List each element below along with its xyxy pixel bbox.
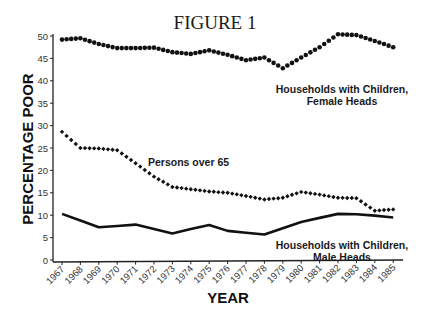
label-male-heads-line2: Male Heads xyxy=(313,251,371,263)
y-tick-label: 25 xyxy=(37,143,48,154)
chart: FIGURE 1 05101520253035404550 1967196819… xyxy=(0,0,427,322)
x-tick-label: 1978 xyxy=(246,262,269,285)
x-tick-label: 1972 xyxy=(136,263,159,286)
x-tick-label: 1974 xyxy=(172,263,195,286)
y-tick-label: 30 xyxy=(37,120,48,131)
x-tick-label: 1975 xyxy=(191,263,214,286)
chart-title: FIGURE 1 xyxy=(174,12,257,33)
x-axis-title: YEAR xyxy=(207,289,249,306)
y-tick-label: 35 xyxy=(37,98,48,109)
x-tick-label: 1985 xyxy=(375,262,398,285)
x-tick-label: 1981 xyxy=(301,262,324,285)
y-tick-label: 50 xyxy=(37,31,48,42)
x-tick-label: 1980 xyxy=(283,262,306,285)
y-tick-label: 0 xyxy=(43,255,48,266)
x-tick-label: 1970 xyxy=(99,263,122,286)
x-tick-label: 1968 xyxy=(62,264,85,287)
y-tick-label: 15 xyxy=(37,187,48,198)
series-male-heads xyxy=(62,214,393,235)
y-axis-title: PERCENTAGE POOR xyxy=(19,73,36,225)
x-tick-label: 1973 xyxy=(154,263,177,286)
y-tick-label: 10 xyxy=(37,210,48,221)
y-tick-label: 20 xyxy=(37,165,48,176)
series-female-heads xyxy=(60,32,396,71)
y-tick-label: 40 xyxy=(37,75,48,86)
x-tick-label: 1979 xyxy=(264,262,287,285)
x-tick-label: 1984 xyxy=(356,262,379,285)
x-tick-label: 1977 xyxy=(228,263,251,286)
label-female-heads-line1: Households with Children, xyxy=(276,83,409,95)
label-persons-over-65: Persons over 65 xyxy=(148,156,229,168)
series-persons-over-65 xyxy=(60,130,396,213)
x-tick-label: 1976 xyxy=(209,263,232,286)
y-tick-label: 45 xyxy=(37,53,48,64)
x-tick-label: 1967 xyxy=(44,264,67,287)
x-tick-label: 1982 xyxy=(320,262,343,285)
x-axis: 1967196819691970197119721973197419751976… xyxy=(44,260,403,286)
x-tick-label: 1971 xyxy=(117,263,140,286)
y-tick-label: 5 xyxy=(43,232,48,243)
x-tick-label: 1983 xyxy=(338,262,361,285)
x-tick-label: 1969 xyxy=(80,263,103,286)
y-axis: 05101520253035404550 xyxy=(37,31,53,266)
label-female-heads-line2: Female Heads xyxy=(307,95,378,107)
label-male-heads-line1: Households with Children, xyxy=(276,239,409,251)
